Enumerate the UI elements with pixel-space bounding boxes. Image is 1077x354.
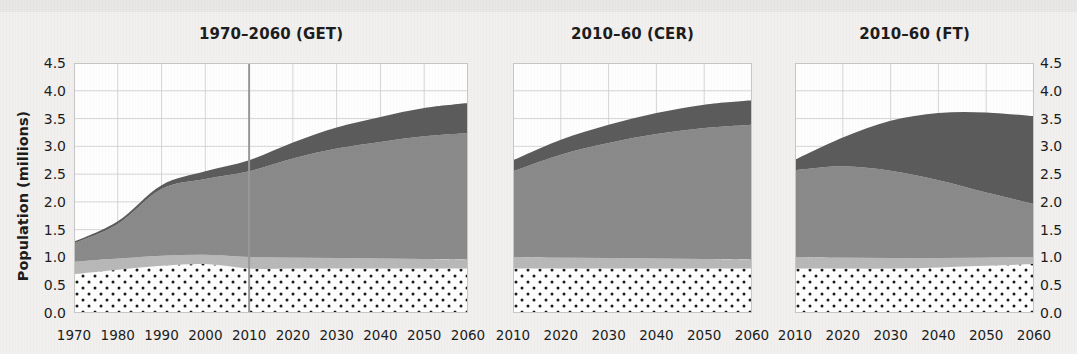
y-tick-label-right: 4.0	[1040, 84, 1074, 98]
y-tick-label-left: 3.5	[32, 112, 66, 126]
x-tick-label-ft: 2020	[821, 329, 865, 343]
y-tick-label-left: 3.0	[32, 139, 66, 153]
plot-area-get[interactable]	[74, 63, 468, 313]
x-tick-label-get: 2030	[315, 329, 359, 343]
y-tick-label-right: 4.5	[1040, 56, 1074, 70]
plot-area-cer[interactable]	[513, 63, 752, 313]
x-tick-label-ft: 2060	[1012, 329, 1056, 343]
y-tick-label-right: 0.5	[1040, 278, 1074, 292]
area-band-dotted	[513, 269, 752, 313]
x-tick-label-cer: 2050	[682, 329, 726, 343]
y-tick-label-right: 1.0	[1040, 250, 1074, 264]
y-tick-label-left: 4.5	[32, 56, 66, 70]
y-tick-label-left: 0.5	[32, 278, 66, 292]
y-tick-label-right: 0.0	[1040, 306, 1074, 320]
y-tick-label-left: 1.5	[32, 223, 66, 237]
x-tick-label-cer: 2020	[539, 329, 583, 343]
x-tick-label-ft: 2040	[916, 329, 960, 343]
plot-area-ft[interactable]	[795, 63, 1034, 313]
y-tick-label-right: 3.0	[1040, 139, 1074, 153]
y-tick-label-right: 3.5	[1040, 112, 1074, 126]
x-tick-label-ft: 2030	[869, 329, 913, 343]
y-tick-label-left: 2.5	[32, 167, 66, 181]
x-tick-label-cer: 2060	[730, 329, 774, 343]
y-tick-label-left: 2.0	[32, 195, 66, 209]
x-tick-label-ft: 2050	[964, 329, 1008, 343]
x-tick-label-ft: 2010	[773, 329, 817, 343]
figure-root: Population (millions) 4.54.03.53.02.52.0…	[0, 0, 1077, 354]
y-axis-title: Population (millions)	[15, 96, 31, 296]
x-tick-label-cer: 2010	[491, 329, 535, 343]
x-tick-label-cer: 2040	[634, 329, 678, 343]
y-tick-label-left: 0.0	[32, 306, 66, 320]
x-tick-label-get: 2060	[446, 329, 490, 343]
x-tick-label-get: 2020	[271, 329, 315, 343]
y-tick-label-left: 4.0	[32, 84, 66, 98]
area-band-dotted	[74, 264, 468, 313]
x-tick-label-get: 1980	[96, 329, 140, 343]
y-tick-label-left: 1.0	[32, 250, 66, 264]
area-band-dotted	[795, 264, 1034, 313]
x-tick-label-get: 2040	[358, 329, 402, 343]
x-tick-label-get: 2010	[227, 329, 271, 343]
panel-title-cer: 2010–60 (CER)	[513, 25, 752, 43]
y-tick-label-right: 2.0	[1040, 195, 1074, 209]
x-tick-label-cer: 2030	[587, 329, 631, 343]
x-tick-label-get: 1990	[140, 329, 184, 343]
page-top-stripe	[0, 0, 1077, 12]
x-tick-label-get: 2050	[402, 329, 446, 343]
x-tick-label-get: 1970	[52, 329, 96, 343]
y-tick-label-right: 1.5	[1040, 223, 1074, 237]
x-tick-label-get: 2000	[183, 329, 227, 343]
y-tick-label-right: 2.5	[1040, 167, 1074, 181]
panel-title-get: 1970–2060 (GET)	[74, 25, 468, 43]
panel-title-ft: 2010–60 (FT)	[795, 25, 1034, 43]
